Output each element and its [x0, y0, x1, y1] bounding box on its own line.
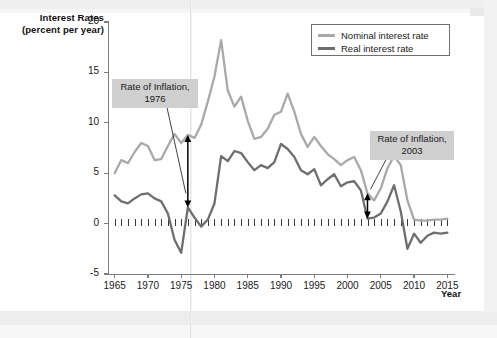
x-axis-tick [314, 274, 315, 278]
x-axis-tick-label: 1970 [131, 280, 165, 291]
legend-swatch-nominal [318, 34, 335, 37]
x-axis-tick-label: 1990 [264, 280, 298, 291]
x-axis-tick [214, 274, 215, 278]
legend-label-nominal: Nominal interest rate [341, 30, 429, 41]
page-scan-artifact-top [0, 0, 497, 9]
x-axis-tick [114, 274, 115, 278]
x-axis-tick-label: 1965 [98, 280, 132, 291]
legend-label-real: Real interest rate [341, 43, 413, 54]
annotation-leader-line [166, 103, 186, 193]
chart-figure: Interest Rates (percent per year) Year 2… [0, 0, 497, 338]
x-axis-tick [280, 274, 281, 278]
y-axis-tick-label: 10 [75, 116, 99, 127]
x-axis-tick-label: 1985 [231, 280, 265, 291]
y-axis-tick-label: 20 [75, 15, 99, 26]
x-axis-tick-label: 1995 [297, 280, 331, 291]
x-axis-tick [413, 274, 414, 278]
chart-legend: Nominal interest rate Real interest rate [311, 24, 450, 56]
annotation-2003-line2: 2003 [401, 145, 422, 156]
page-scan-artifact-bottom [0, 311, 497, 325]
x-axis-tick-label: 1980 [197, 280, 231, 291]
page-scan-artifact-corner [470, 8, 486, 16]
annotation-callout-inflation-1976: Rate of Inflation, 1976 [112, 79, 198, 108]
annotation-callout-inflation-2003: Rate of Inflation, 2003 [370, 131, 454, 160]
x-axis-tick [247, 274, 248, 278]
annotation-2003-line1: Rate of Inflation, [377, 133, 446, 144]
x-axis-tick-label: 2015 [430, 280, 464, 291]
y-axis-tick-label: 15 [75, 65, 99, 76]
x-axis-tick-label: 2005 [364, 280, 398, 291]
annotation-1976-line2: 1976 [144, 93, 165, 104]
x-axis-tick [380, 274, 381, 278]
page-scan-artifact-bottom-secondary [0, 325, 497, 338]
x-axis-tick [147, 274, 148, 278]
x-axis-tick [447, 274, 448, 278]
x-axis-tick-label: 1975 [164, 280, 198, 291]
x-axis-tick-label: 2000 [331, 280, 365, 291]
page-scan-artifact-right [484, 0, 497, 312]
y-axis-tick-label: 0 [75, 217, 99, 228]
x-axis-tick [181, 274, 182, 278]
legend-swatch-real [318, 47, 335, 50]
x-axis-tick-label: 2010 [397, 280, 431, 291]
y-axis-tick-label: -5 [75, 267, 99, 278]
annotation-leader-lines [166, 103, 390, 193]
annotation-1976-line1: Rate of Inflation, [120, 81, 189, 92]
y-axis-tick-label: 5 [75, 166, 99, 177]
legend-item-nominal: Nominal interest rate [318, 29, 443, 42]
x-axis-tick [347, 274, 348, 278]
annotation-arrow-head [184, 200, 191, 207]
legend-item-real: Real interest rate [318, 42, 443, 55]
